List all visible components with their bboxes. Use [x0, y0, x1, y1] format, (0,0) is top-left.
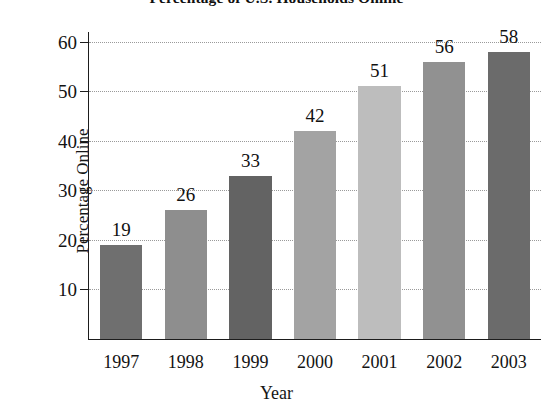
- y-tick-label-10: 10: [35, 280, 77, 299]
- y-tick-30: [80, 190, 89, 191]
- bar-value-label-1998: 26: [153, 185, 219, 204]
- x-tick-label-2003: 2003: [474, 353, 544, 371]
- x-axis-title: Year: [0, 383, 553, 404]
- bar-2002[interactable]: [423, 62, 465, 339]
- gridline-50: [89, 91, 541, 92]
- bar-1997[interactable]: [100, 245, 142, 339]
- bar-value-label-2003: 58: [476, 27, 542, 46]
- bar-value-label-1997: 19: [88, 220, 154, 239]
- x-tick-label-1997: 1997: [86, 353, 156, 371]
- y-tick-60: [80, 42, 89, 43]
- x-axis-baseline: [88, 339, 541, 340]
- y-tick-label-30: 30: [35, 181, 77, 200]
- bar-2003[interactable]: [488, 52, 530, 339]
- x-tick-label-2001: 2001: [344, 353, 414, 371]
- chart-title-clip: Percentage of U.S. Households Online: [0, 0, 553, 8]
- bar-2000[interactable]: [294, 131, 336, 339]
- x-tick-label-2000: 2000: [280, 353, 350, 371]
- y-tick-label-50: 50: [35, 82, 77, 101]
- y-tick-label-20: 20: [35, 231, 77, 250]
- bar-value-label-2000: 42: [282, 106, 348, 125]
- y-tick-10: [80, 289, 89, 290]
- y-tick-label-40: 40: [35, 132, 77, 151]
- chart-title: Percentage of U.S. Households Online: [0, 0, 553, 7]
- bar-chart-figure: Percentage of U.S. Households Online Per…: [0, 0, 553, 414]
- y-axis-spine: [88, 32, 89, 340]
- y-tick-50: [80, 91, 89, 92]
- bar-2001[interactable]: [358, 86, 400, 339]
- bar-value-label-2002: 56: [411, 37, 477, 56]
- y-tick-40: [80, 141, 89, 142]
- bar-1999[interactable]: [229, 176, 271, 339]
- x-tick-label-2002: 2002: [409, 353, 479, 371]
- y-tick-20: [80, 240, 89, 241]
- x-tick-label-1999: 1999: [215, 353, 285, 371]
- bar-value-label-2001: 51: [346, 61, 412, 80]
- bar-value-label-1999: 33: [217, 151, 283, 170]
- x-tick-label-1998: 1998: [151, 353, 221, 371]
- plot-area: 102030405060 19263342515658: [89, 32, 541, 339]
- bar-1998[interactable]: [165, 210, 207, 339]
- y-tick-label-60: 60: [35, 33, 77, 52]
